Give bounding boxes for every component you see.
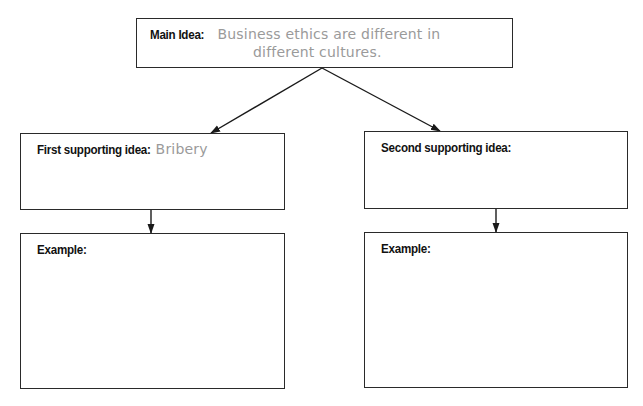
- second-supporting-idea-label: Second supporting idea:: [381, 140, 511, 155]
- first-supporting-idea-answer[interactable]: Bribery: [156, 141, 208, 157]
- main-idea-box: Main Idea: Business ethics are different…: [136, 18, 513, 68]
- second-supporting-idea-box[interactable]: Second supporting idea:: [364, 131, 628, 209]
- first-supporting-idea-label: First supporting idea:: [37, 142, 151, 157]
- arrow-main-to-second: [322, 68, 440, 131]
- second-example-box[interactable]: Example:: [364, 232, 628, 388]
- second-example-label: Example:: [381, 241, 431, 256]
- main-idea-answer-line2[interactable]: different cultures.: [253, 44, 382, 60]
- arrow-main-to-first: [211, 68, 322, 133]
- first-example-box[interactable]: Example:: [20, 233, 285, 389]
- main-idea-answer-line1[interactable]: Business ethics are different in: [217, 26, 440, 42]
- first-supporting-idea-box[interactable]: First supporting idea: Bribery: [20, 133, 285, 210]
- first-example-label: Example:: [37, 242, 87, 257]
- main-idea-label: Main Idea:: [150, 27, 204, 42]
